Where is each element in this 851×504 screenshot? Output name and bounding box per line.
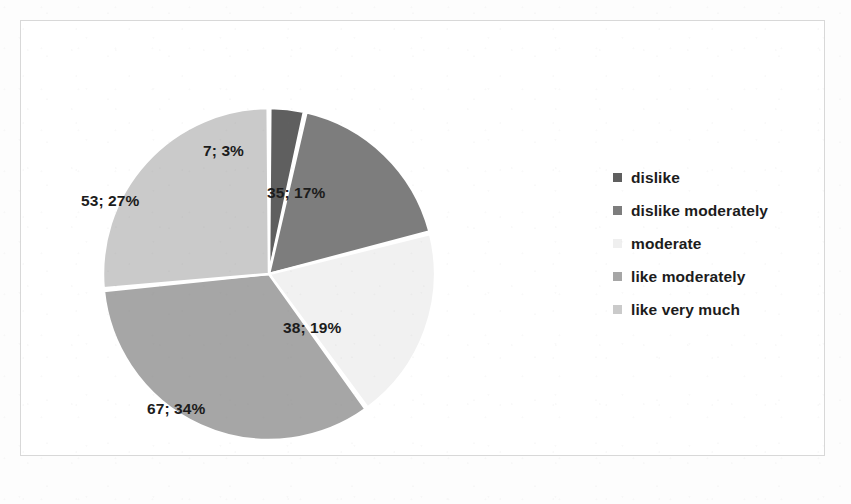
chart-legend: dislike dislike moderately moderate like…	[613, 161, 833, 326]
slice-label-dislike: 7; 3%	[203, 142, 244, 160]
legend-swatch-icon	[613, 173, 622, 182]
legend-swatch-icon	[613, 305, 622, 314]
legend-item-dislike[interactable]: dislike	[613, 161, 833, 194]
legend-item-dislike-moderately[interactable]: dislike moderately	[613, 194, 833, 227]
legend-label: dislike moderately	[631, 202, 768, 220]
slice-label-moderate: 38; 19%	[283, 319, 341, 337]
slice-label-like-moderately: 67; 34%	[147, 400, 205, 418]
legend-label: dislike	[631, 169, 680, 187]
legend-swatch-icon	[613, 239, 622, 248]
legend-label: like very much	[631, 301, 740, 319]
chart-frame: 7; 3% 35; 17% 38; 19% 67; 34% 53; 27% di…	[20, 20, 825, 456]
legend-item-like-very-much[interactable]: like very much	[613, 293, 833, 326]
legend-swatch-icon	[613, 206, 622, 215]
legend-label: moderate	[631, 235, 702, 253]
legend-item-like-moderately[interactable]: like moderately	[613, 260, 833, 293]
pie-chart: 7; 3% 35; 17% 38; 19% 67; 34% 53; 27%	[99, 104, 439, 444]
legend-swatch-icon	[613, 272, 622, 281]
slice-label-like-very-much: 53; 27%	[81, 192, 139, 210]
legend-label: like moderately	[631, 268, 745, 286]
legend-item-moderate[interactable]: moderate	[613, 227, 833, 260]
pie-svg	[99, 104, 439, 444]
pie-slice-group	[103, 108, 435, 440]
slice-label-dislike-moderately: 35; 17%	[267, 184, 325, 202]
